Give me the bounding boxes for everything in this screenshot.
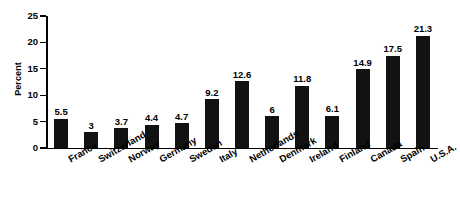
bar-slot: 9.2 <box>197 16 227 148</box>
x-axis-labels: FranceSwitzerlandNorwayGermanySwedenItal… <box>46 150 438 210</box>
x-axis-category-label: Ireland <box>309 154 315 164</box>
plot-area: 5.533.74.44.79.212.6611.86.114.917.521.3 <box>46 16 438 148</box>
y-axis-tick-label-wrap: 10 <box>14 90 38 100</box>
bar-value-label: 9.2 <box>205 88 218 98</box>
bar-value-label: 3.7 <box>115 117 128 127</box>
x-axis-category-label: Finland <box>339 154 345 164</box>
bar-value-label: 4.7 <box>175 112 188 122</box>
bar-slot: 14.9 <box>348 16 378 148</box>
bar-value-label: 12.6 <box>233 70 252 80</box>
y-axis-tick-label: 15 <box>14 64 38 74</box>
y-axis-tick-label-wrap: 5 <box>14 117 38 127</box>
bar-value-label: 6 <box>269 105 274 115</box>
bar-slot: 3 <box>76 16 106 148</box>
x-axis-category-label: U.S.A. <box>430 154 436 164</box>
bar-slot: 12.6 <box>227 16 257 148</box>
x-axis-category-label: Sweden <box>189 154 195 164</box>
bar <box>386 56 400 148</box>
bar <box>356 69 370 148</box>
y-axis-tick-label: 20 <box>14 37 38 47</box>
bar-value-label: 5.5 <box>54 107 67 117</box>
y-axis-tick-label-wrap: 0 <box>14 143 38 153</box>
bar-slot: 21.3 <box>408 16 438 148</box>
bar-slot: 17.5 <box>378 16 408 148</box>
bar-slot: 6 <box>257 16 287 148</box>
x-axis-category-label: Italy <box>219 154 225 164</box>
bar-value-label: 6.1 <box>326 104 339 114</box>
bar <box>416 36 430 148</box>
bar <box>235 81 249 148</box>
x-axis-category-label: Canada <box>370 154 376 164</box>
x-axis-category-label: Norway <box>128 154 134 164</box>
bar-slot: 4.7 <box>167 16 197 148</box>
bar-value-label: 3 <box>89 121 94 131</box>
bar-value-label: 21.3 <box>414 24 433 34</box>
bar-value-label: 11.8 <box>293 74 311 84</box>
x-axis-category-label: France <box>68 154 74 164</box>
bar-slot: 6.1 <box>317 16 347 148</box>
x-axis-category-label: Denmark <box>279 154 285 164</box>
y-axis-tick-label: 5 <box>14 117 38 127</box>
y-axis-tick-label-wrap: 25 <box>14 11 38 21</box>
bar-value-label: 17.5 <box>384 44 403 54</box>
y-axis-tick-label: 25 <box>14 11 38 21</box>
x-axis-category-label: Netherlands <box>249 154 255 164</box>
x-axis-category-label: Germany <box>159 154 165 164</box>
bar-value-label: 4.4 <box>145 113 158 123</box>
y-axis-tick-label: 10 <box>14 90 38 100</box>
bar-value-label: 14.9 <box>353 58 372 68</box>
x-axis-category-label: Spain <box>400 154 406 164</box>
bar <box>54 119 68 148</box>
y-axis-tick-label-wrap: 20 <box>14 37 38 47</box>
y-axis-title: Percent <box>13 44 23 114</box>
bar-slot: 3.7 <box>106 16 136 148</box>
y-axis-tick-label-wrap: 15 <box>14 64 38 74</box>
y-axis-tick-label: 0 <box>14 143 38 153</box>
bar-slot: 5.5 <box>46 16 76 148</box>
x-axis-category-label: Switzerland <box>98 154 104 164</box>
